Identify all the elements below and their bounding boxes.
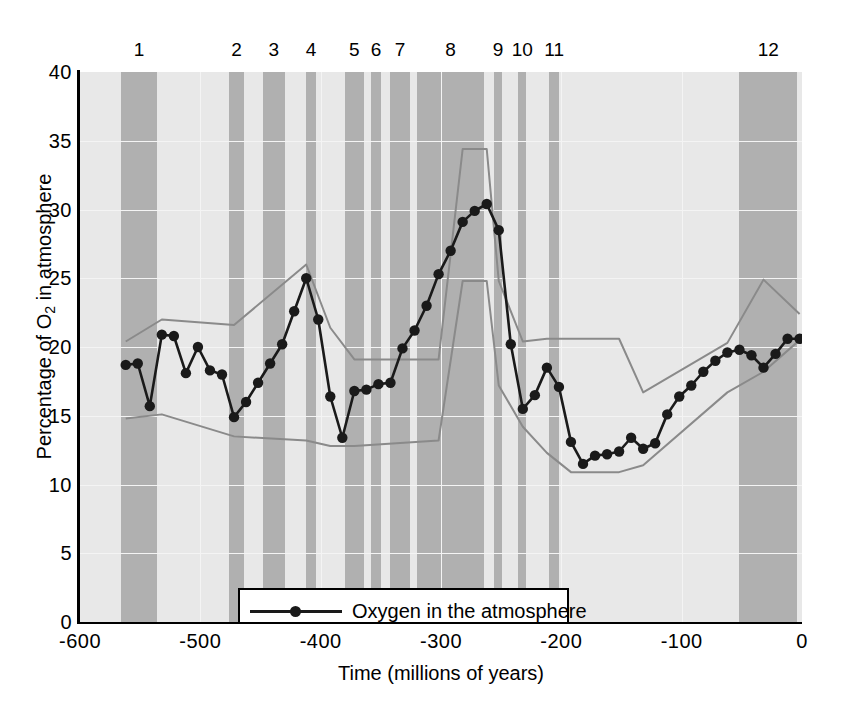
data-point — [133, 358, 143, 368]
data-point — [542, 362, 552, 372]
data-point — [494, 225, 504, 235]
y-axis-tick-label-5: 5 — [4, 543, 72, 563]
data-point — [169, 331, 179, 341]
y-axis-tick-label-35: 35 — [4, 131, 72, 151]
data-point — [433, 269, 443, 279]
x-axis-tick-label-0: 0 — [757, 630, 847, 652]
x-axis-tick-label--600: -600 — [35, 630, 125, 652]
y-axis-tick-label-20: 20 — [4, 337, 72, 357]
data-point — [554, 382, 564, 392]
data-point — [698, 367, 708, 377]
x-axis-tick-label--200: -200 — [516, 630, 606, 652]
data-point — [686, 380, 696, 390]
data-point — [506, 339, 516, 349]
data-point — [385, 378, 395, 388]
data-point — [626, 433, 636, 443]
error-upper-line — [126, 149, 800, 392]
data-point — [662, 409, 672, 419]
data-point — [349, 386, 359, 396]
data-point — [217, 369, 227, 379]
band-number-label-7: 7 — [380, 40, 420, 60]
y-axis-tick-label-15: 15 — [4, 406, 72, 426]
data-point — [337, 433, 347, 443]
data-point — [734, 345, 744, 355]
chart-figure: Percentage of O2 in atmosphere 051015202… — [0, 0, 851, 717]
data-point — [289, 306, 299, 316]
data-point — [253, 378, 263, 388]
data-point — [277, 339, 287, 349]
data-point — [469, 206, 479, 216]
data-point — [650, 438, 660, 448]
data-point — [482, 199, 492, 209]
y-axis-tick-label-25: 25 — [4, 268, 72, 288]
data-point — [578, 459, 588, 469]
data-point — [325, 391, 335, 401]
data-point — [602, 449, 612, 459]
data-point — [373, 379, 383, 389]
data-point — [193, 342, 203, 352]
data-point — [313, 314, 323, 324]
data-point — [722, 347, 732, 357]
data-point — [530, 390, 540, 400]
data-point — [229, 412, 239, 422]
data-point — [674, 391, 684, 401]
y-axis-tick-label-10: 10 — [4, 475, 72, 495]
legend-marker-oxygen-icon — [250, 603, 342, 619]
oxygen-line — [126, 204, 800, 464]
x-axis-tick-label--300: -300 — [396, 630, 486, 652]
band-number-label-8: 8 — [431, 40, 471, 60]
data-point — [157, 329, 167, 339]
x-axis-tick-label--100: -100 — [637, 630, 727, 652]
data-point — [710, 356, 720, 366]
data-point — [409, 325, 419, 335]
data-point — [782, 334, 792, 344]
legend-label-oxygen: Oxygen in the atmosphere — [352, 601, 587, 621]
data-point — [590, 450, 600, 460]
y-axis-tick-label-40: 40 — [4, 62, 72, 82]
y-axis-tick-group: 0510152025303540 — [0, 0, 72, 717]
data-point — [145, 401, 155, 411]
y-axis-tick-label-0: 0 — [4, 612, 72, 632]
x-axis-tick-label--400: -400 — [276, 630, 366, 652]
band-number-label-3: 3 — [254, 40, 294, 60]
data-point — [181, 368, 191, 378]
band-number-label-2: 2 — [216, 40, 256, 60]
legend-entry-oxygen: Oxygen in the atmosphere — [250, 596, 587, 622]
x-axis-label: Time (millions of years) — [80, 662, 802, 685]
data-point — [457, 217, 467, 227]
band-number-label-11: 11 — [534, 40, 574, 60]
data-point — [121, 360, 131, 370]
plot-area: Oxygen in the atmosphere Estimated error — [80, 72, 802, 622]
data-point — [638, 444, 648, 454]
data-point — [518, 404, 528, 414]
data-point — [361, 384, 371, 394]
data-series-layer — [80, 72, 802, 622]
data-point — [301, 273, 311, 283]
data-point — [566, 437, 576, 447]
data-point — [265, 358, 275, 368]
data-point — [614, 446, 624, 456]
data-point — [770, 349, 780, 359]
chart-legend: Oxygen in the atmosphere Estimated error — [238, 588, 569, 622]
data-point — [746, 350, 756, 360]
data-point — [397, 343, 407, 353]
band-number-label-1: 1 — [119, 40, 159, 60]
data-point — [445, 246, 455, 256]
y-axis-tick-label-30: 30 — [4, 200, 72, 220]
band-number-label-12: 12 — [748, 40, 788, 60]
x-axis-tick-label--500: -500 — [155, 630, 245, 652]
data-point — [758, 362, 768, 372]
data-point — [241, 397, 251, 407]
band-number-label-4: 4 — [291, 40, 331, 60]
data-point — [205, 365, 215, 375]
data-point — [421, 301, 431, 311]
